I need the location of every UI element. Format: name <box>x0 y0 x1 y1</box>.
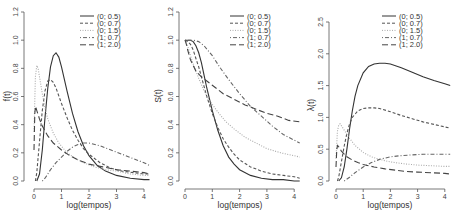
curve-dashed <box>185 40 300 178</box>
y-tick-label: 1.2 <box>167 7 174 17</box>
x-tick-label: 1 <box>60 193 64 200</box>
x-tick-label: 4 <box>292 193 296 200</box>
x-tick-label: 2 <box>87 193 91 200</box>
y-tick-label: 1.2 <box>12 7 19 17</box>
curves <box>185 40 300 181</box>
legend: (0; 0.5)(0; 0.7)(0; 1.5)(1; 0.7)(1; 2.0) <box>382 12 423 50</box>
x-tick-label: 3 <box>416 193 420 200</box>
x-tick-label: 4 <box>142 193 146 200</box>
y-tick-label: 0.4 <box>12 120 19 130</box>
y-tick-label: 0.4 <box>167 120 174 130</box>
x-axis-label: log(tempos) <box>368 200 413 210</box>
x-tick-label: 2 <box>238 193 242 200</box>
x-axis-label: log(tempos) <box>218 200 263 210</box>
y-tick-label: 1.0 <box>317 112 324 122</box>
legend-label: (1; 2.0) <box>399 40 423 49</box>
curve-longdash <box>336 145 450 174</box>
legend: (0; 0.5)(0; 0.7)(0; 1.5)(1; 0.7)(1; 2.0) <box>80 12 121 50</box>
x-tick-label: 3 <box>115 193 119 200</box>
y-tick-label: 0.2 <box>167 148 174 158</box>
density-panel: f(t) log(tempos) 0.00.20.40.60.81.01.201… <box>2 7 150 210</box>
y-tick-label: 0.0 <box>167 176 174 186</box>
curve-solid <box>339 63 451 181</box>
y-axis-label: S(t) <box>153 89 163 103</box>
x-tick-label: 4 <box>443 193 447 200</box>
y-tick-label: 1.0 <box>167 35 174 45</box>
y-tick-label: 1.0 <box>12 35 19 45</box>
y-tick-label: 0.8 <box>12 63 19 73</box>
y-tick-label: 0.8 <box>167 63 174 73</box>
curve-dotdash <box>344 154 450 181</box>
y-tick-label: 1.5 <box>317 81 324 91</box>
legend: (0; 0.5)(0; 0.7)(0; 1.5)(1; 0.7)(1; 2.0) <box>230 12 271 50</box>
survival-panel: S(t) log(tempos) 0.00.20.40.60.81.01.201… <box>153 7 300 210</box>
x-axis-label: log(tempos) <box>67 200 112 210</box>
hazard-panel: λ(t) log(tempos) 0.00.51.01.52.02.501234… <box>306 12 450 211</box>
curve-dotted <box>336 124 450 167</box>
x-tick-label: 3 <box>265 193 269 200</box>
y-tick-label: 2.0 <box>317 49 324 59</box>
y-tick-label: 0.0 <box>317 176 324 186</box>
y-tick-label: 0.5 <box>317 144 324 154</box>
x-tick-label: 1 <box>210 193 214 200</box>
curves <box>336 63 450 181</box>
legend-label: (1; 2.0) <box>247 40 271 49</box>
curve-dotdash <box>42 143 149 181</box>
x-tick-label: 0 <box>32 193 36 200</box>
curve-dotdash <box>185 40 300 143</box>
x-tick-label: 0 <box>183 193 187 200</box>
y-tick-label: 0.6 <box>167 92 174 102</box>
curves <box>34 53 150 181</box>
curve-solid <box>185 40 300 181</box>
curve-dotted <box>185 40 300 157</box>
x-tick-label: 1 <box>361 193 365 200</box>
y-axis-label: f(t) <box>2 91 12 102</box>
axes: 0.00.20.40.60.81.01.201234 <box>167 7 296 200</box>
x-tick-label: 0 <box>334 193 338 200</box>
y-axis-label: λ(t) <box>306 99 316 111</box>
legend-label: (1; 2.0) <box>97 40 121 49</box>
y-tick-label: 2.5 <box>317 17 324 27</box>
curve-solid <box>37 53 150 181</box>
y-tick-label: 0.6 <box>12 92 19 102</box>
y-tick-label: 0.2 <box>12 148 19 158</box>
x-tick-label: 2 <box>388 193 392 200</box>
curve-longdash <box>34 106 150 174</box>
figure: f(t) log(tempos) 0.00.20.40.60.81.01.201… <box>0 0 459 217</box>
y-tick-label: 0.0 <box>12 176 19 186</box>
